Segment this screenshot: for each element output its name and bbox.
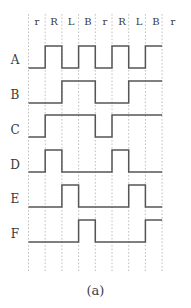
figure-caption: (a): [0, 283, 191, 298]
waveform-b: [29, 81, 163, 103]
waveform-c: [29, 115, 163, 137]
timing-diagram-figure: r R L B r R L B r A B C D E F (a): [0, 0, 191, 308]
waveform-f: [29, 220, 163, 242]
waveform-a: [29, 46, 163, 68]
waveform-plot: [0, 0, 191, 308]
